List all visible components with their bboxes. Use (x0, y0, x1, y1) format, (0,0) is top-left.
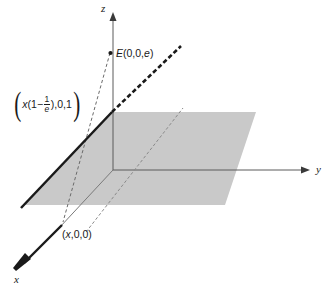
fraction-label-inner: x(1−1e),0,1 (22, 95, 71, 113)
point-x00-rest: ,0,0) (71, 228, 92, 240)
x-axis-line-outer (24, 225, 62, 263)
point-E-label-close: ) (150, 47, 154, 59)
fraction-label-sub-open: (1− (28, 99, 43, 110)
x-axis-label: x (13, 273, 19, 285)
fraction-denominator: e (44, 104, 51, 114)
one-over-e-fraction: 1e (44, 95, 51, 113)
point-fraction-label: ( x(1−1e),0,1 ) (12, 92, 82, 116)
coordinate-diagram: y z x E(0,0,e) (x,0,0) (0, 0, 331, 290)
shaded-plane (24, 112, 256, 205)
point-E-marker (108, 51, 112, 55)
left-paren: ( (14, 92, 21, 116)
fraction-numerator: 1 (44, 95, 51, 104)
point-x00-label: (x,0,0) (62, 228, 92, 240)
y-axis-arrowhead (301, 167, 310, 174)
fraction-label-tail: ,0,1 (54, 99, 72, 110)
z-axis-arrowhead (110, 12, 117, 21)
y-axis-label: y (315, 163, 321, 175)
figure-root: y z x E(0,0,e) (x,0,0) ( (0, 0, 331, 290)
z-axis-label: z (100, 2, 106, 14)
right-paren: ) (73, 92, 80, 116)
x-axis-arrowhead (13, 253, 31, 271)
point-E-label: E(0,0,e) (116, 47, 153, 59)
point-E-label-coords: (0,0, (123, 47, 144, 59)
